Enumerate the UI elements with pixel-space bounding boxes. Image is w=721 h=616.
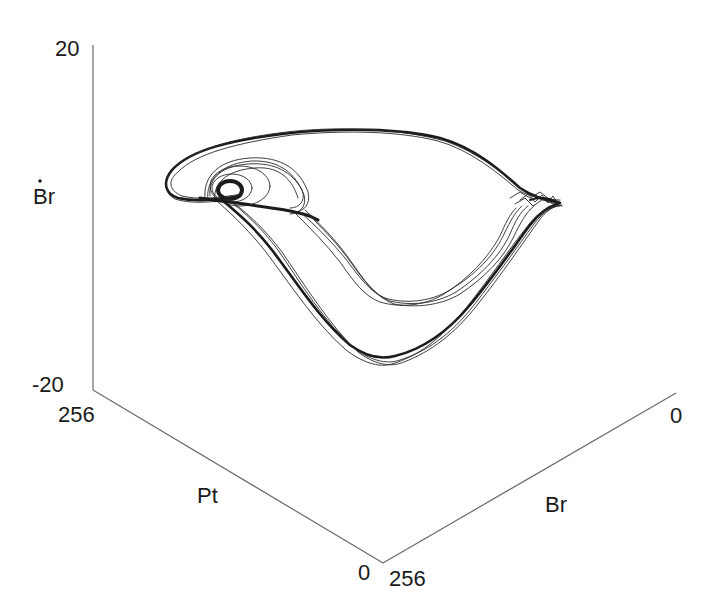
inner-lower-lobe-strand <box>308 206 534 306</box>
axis-labels: 20 Br -20 256 Pt 0 256 Br 0 <box>32 36 682 591</box>
dot-accent <box>38 179 42 183</box>
axes <box>93 45 676 563</box>
y-axis-name-text: Br <box>33 184 55 209</box>
cusp-region <box>510 192 560 206</box>
origin-br-label: 256 <box>389 566 426 591</box>
origin-pt-label: 0 <box>358 560 370 585</box>
br-far-label: 0 <box>670 403 682 428</box>
outer-lower-lobe-strand <box>230 200 562 365</box>
pt-axis-name: Pt <box>197 483 218 508</box>
trajectory <box>166 129 562 365</box>
pt-far-label: 256 <box>58 402 95 427</box>
upper-arc-strand <box>166 129 562 206</box>
outer-lower-lobe-strand <box>218 202 556 365</box>
br-axis <box>383 393 676 563</box>
y-min-label: -20 <box>32 372 64 397</box>
phase-space-plot: 20 Br -20 256 Pt 0 256 Br 0 <box>0 0 721 616</box>
outer-lower-lobe <box>222 200 558 358</box>
y-axis-name: Br <box>33 179 55 209</box>
br-axis-name: Br <box>545 492 567 517</box>
upper-arc <box>166 130 560 203</box>
inner-lower-lobe-strand <box>305 206 528 304</box>
pt-axis <box>93 390 383 563</box>
y-max-label: 20 <box>55 36 79 61</box>
